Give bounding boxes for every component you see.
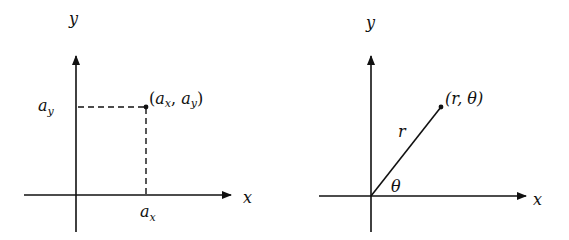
polar-radius-line	[371, 107, 441, 196]
polar-diagram: y x (r, θ) r θ	[319, 13, 542, 232]
cartesian-x-axis-label: x	[243, 188, 252, 207]
cartesian-y-axis-label: y	[68, 9, 79, 28]
cartesian-diagram: y x ay ax (ax, ay)	[24, 9, 252, 232]
polar-radius-label: r	[398, 122, 407, 141]
polar-point-label: (r, θ)	[445, 89, 483, 108]
polar-y-axis-label: y	[365, 13, 376, 32]
coordinate-diagrams: y x ay ax (ax, ay) y x (r, θ) r θ	[0, 0, 569, 240]
cartesian-y-tick-label: ay	[38, 96, 55, 118]
cartesian-x-tick-label: ax	[140, 202, 157, 224]
polar-point	[439, 105, 444, 110]
cartesian-point	[144, 105, 149, 110]
polar-angle-label: θ	[391, 177, 401, 196]
cartesian-point-label: (ax, ay)	[149, 89, 203, 110]
polar-x-axis-label: x	[533, 190, 542, 209]
